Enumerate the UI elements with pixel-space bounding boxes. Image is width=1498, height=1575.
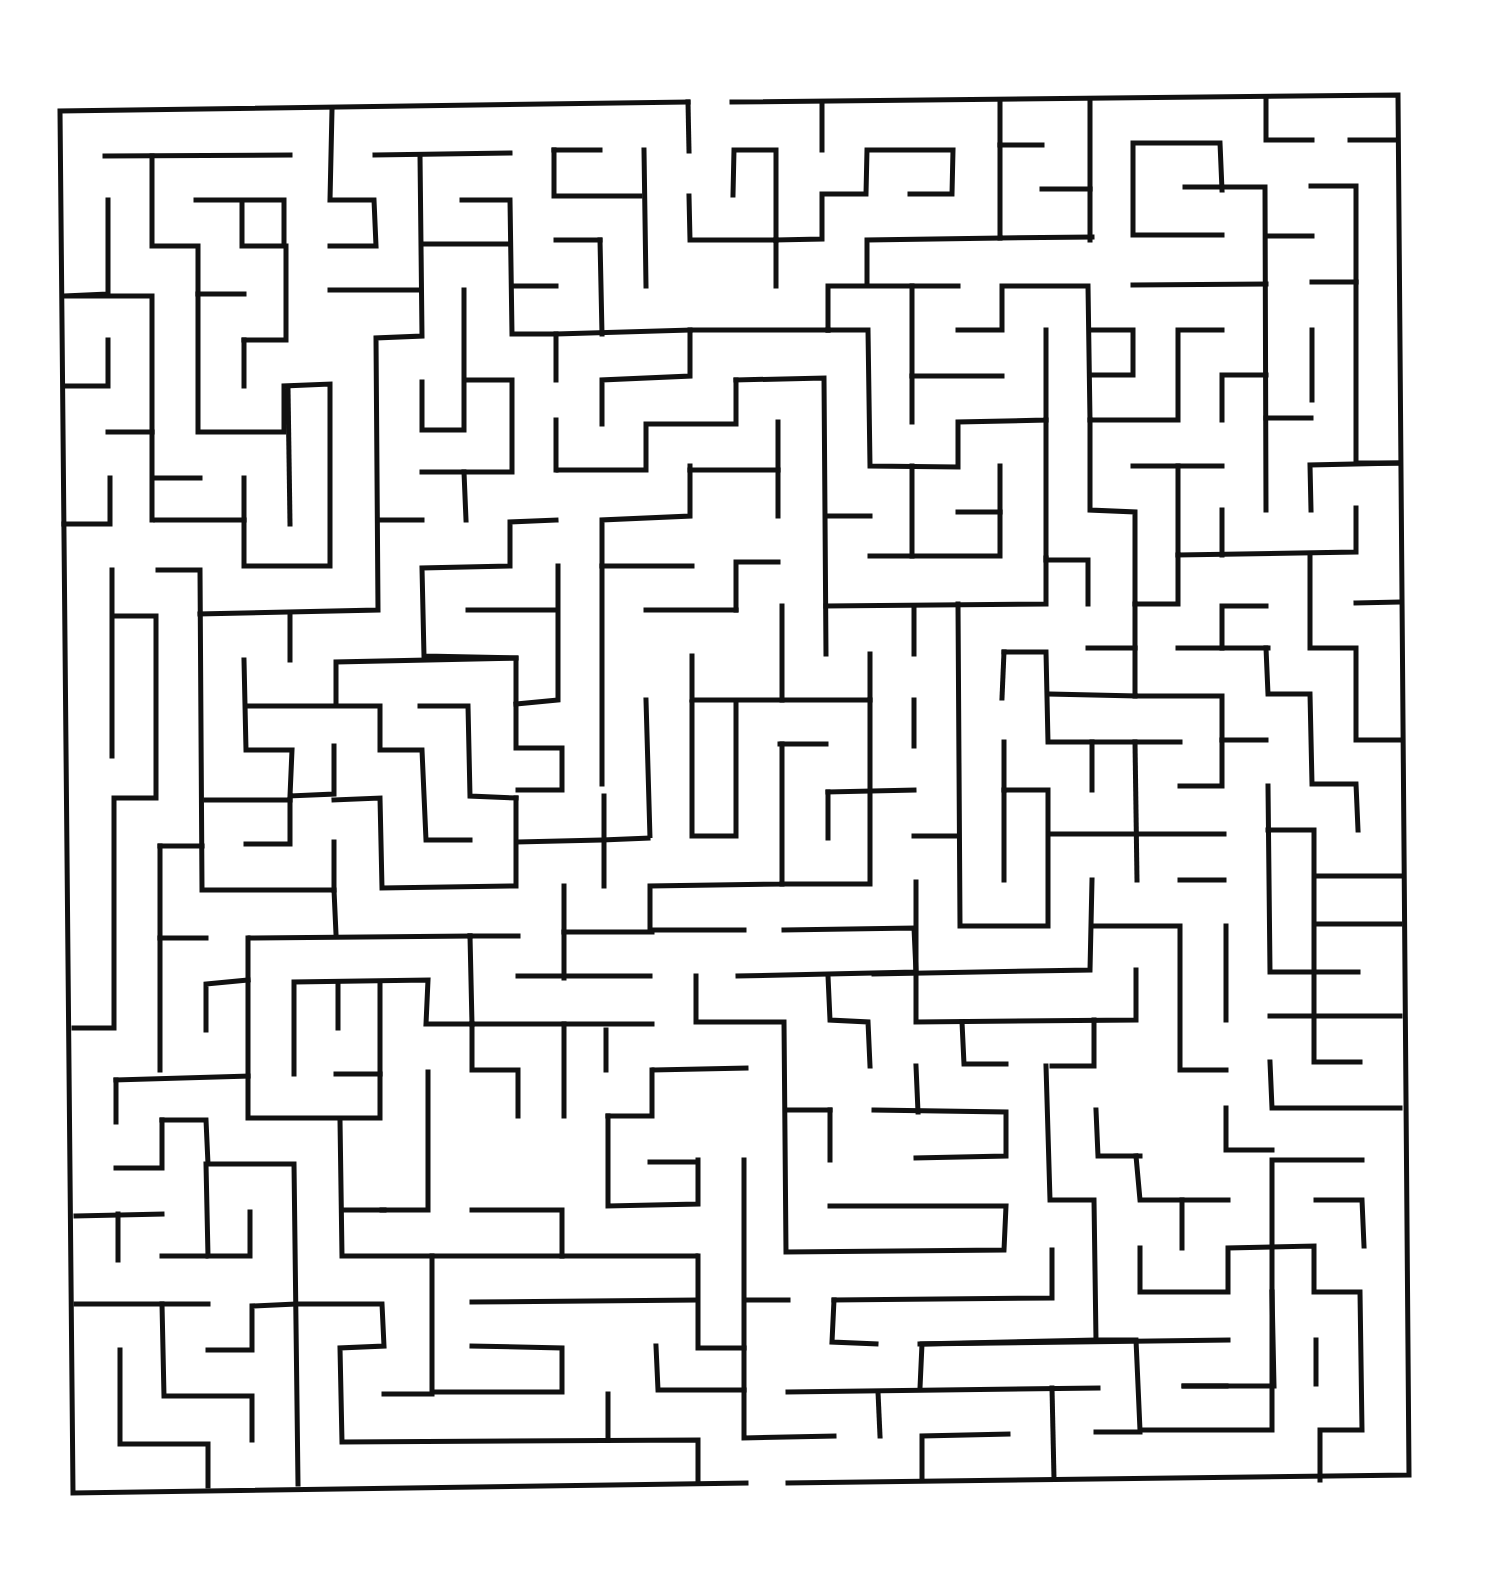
- maze-wall: [558, 380, 736, 470]
- maze-wall: [64, 340, 108, 386]
- maze-wall: [644, 150, 646, 286]
- maze-wall: [920, 1340, 1094, 1388]
- maze-wall: [554, 150, 640, 196]
- maze-wall: [246, 800, 290, 844]
- maze-wall: [600, 240, 602, 334]
- maze-wall: [1135, 604, 1222, 786]
- maze-wall: [776, 150, 953, 240]
- maze-wall: [867, 238, 1000, 285]
- maze-wall: [1050, 694, 1135, 696]
- maze-wall: [1052, 1020, 1094, 1066]
- maze-wall: [74, 616, 156, 1028]
- maze-wall: [1090, 330, 1133, 375]
- maze-wall: [1135, 742, 1137, 880]
- maze-wall: [244, 246, 286, 340]
- maze-wall: [1316, 1200, 1364, 1246]
- maze-wall: [654, 1068, 746, 1070]
- maze-wall: [826, 558, 1046, 606]
- maze-wall: [382, 1072, 428, 1210]
- maze-wall: [962, 1022, 1006, 1064]
- maze-wall: [1266, 648, 1358, 830]
- maze-wall: [828, 330, 1046, 467]
- maze-wall: [1268, 830, 1360, 1062]
- maze-wall: [1136, 1156, 1228, 1200]
- maze-wall: [1311, 186, 1398, 463]
- maze-wall: [288, 388, 290, 524]
- maze-wall: [116, 1076, 248, 1080]
- maze-wall: [1310, 463, 1398, 510]
- maze-wall: [1266, 97, 1312, 140]
- maze-wall: [689, 196, 776, 286]
- maze-wall: [422, 290, 464, 430]
- maze-wall: [834, 1250, 1052, 1300]
- maze-wall: [105, 155, 290, 156]
- maze-wall: [518, 838, 648, 842]
- maze-wall: [196, 200, 284, 246]
- maze-wall: [116, 1120, 162, 1168]
- maze-wall: [472, 1210, 562, 1256]
- maze-wall: [922, 1434, 1008, 1480]
- maze-wall: [1356, 602, 1398, 603]
- maze-wall: [916, 1066, 918, 1112]
- maze-wall: [60, 102, 746, 1493]
- maze-wall: [516, 566, 558, 704]
- maze-wall: [420, 706, 516, 798]
- maze-wall: [472, 1024, 518, 1116]
- maze: [0, 0, 1498, 1575]
- maze-wall: [1090, 420, 1178, 604]
- maze-wall: [828, 976, 870, 1066]
- maze-wall: [1052, 1388, 1054, 1478]
- maze-wall: [422, 520, 562, 790]
- maze-wall: [828, 286, 958, 330]
- maze-wall: [958, 286, 1222, 420]
- maze-wall: [1094, 926, 1226, 1070]
- maze-wall: [432, 1256, 562, 1392]
- maze-wall: [656, 1346, 744, 1390]
- maze-wall: [738, 928, 916, 976]
- maze-wall: [732, 95, 1409, 1483]
- maze-wall: [464, 472, 466, 520]
- maze-wall: [736, 562, 778, 610]
- maze-wall: [646, 700, 650, 838]
- maze-wall: [162, 1304, 252, 1440]
- maze-wall: [375, 153, 510, 155]
- maze-wall: [64, 478, 110, 524]
- maze-wall: [1133, 284, 1266, 285]
- maze-wall: [330, 110, 376, 246]
- maze-wall: [692, 702, 736, 836]
- maze-wall: [832, 1300, 876, 1344]
- maze-wall: [874, 1110, 1006, 1158]
- maze-wall: [1096, 1110, 1140, 1156]
- maze-wall: [248, 938, 380, 1118]
- maze-wall: [608, 1070, 652, 1116]
- maze-wall: [244, 660, 334, 796]
- maze-wall: [1046, 420, 1088, 604]
- maze-wall: [1222, 375, 1266, 420]
- maze-wall: [250, 936, 470, 938]
- maze-wall: [688, 102, 689, 151]
- maze-wall: [1268, 786, 1312, 972]
- maze-wall: [462, 200, 690, 334]
- maze-wall: [878, 1392, 880, 1436]
- maze-wall: [916, 882, 1136, 1022]
- maze-wall: [733, 150, 776, 240]
- maze-wall: [336, 658, 516, 704]
- maze-wall: [294, 936, 472, 1074]
- maze-wall: [1000, 100, 1092, 238]
- maze-wall: [1002, 652, 1004, 698]
- maze-wall: [1310, 554, 1400, 740]
- maze-wall: [1270, 1062, 1400, 1108]
- maze-wall: [1140, 1246, 1362, 1480]
- maze-wall: [206, 1164, 250, 1256]
- maze-wall: [422, 380, 512, 472]
- maze-wall: [472, 1300, 696, 1302]
- maze-wall: [340, 1120, 696, 1256]
- maze-wall: [246, 706, 470, 840]
- maze-wall: [206, 980, 248, 1030]
- maze-wall: [1226, 1108, 1272, 1150]
- maze-wall: [1222, 606, 1266, 648]
- maze-wall: [698, 1256, 744, 1348]
